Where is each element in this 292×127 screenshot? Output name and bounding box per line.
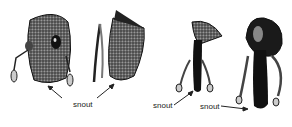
drawings (0, 0, 292, 127)
snout-label-2: snout (153, 101, 173, 110)
head-1 (11, 14, 73, 86)
head-3 (176, 21, 222, 92)
head-4 (236, 18, 282, 109)
arrow-4 (221, 106, 246, 109)
snout-illustration: snout snout snout (0, 0, 292, 127)
snout-label-3: snout (200, 102, 220, 111)
snout-label-1: snout (73, 100, 93, 109)
head-2 (94, 10, 144, 82)
